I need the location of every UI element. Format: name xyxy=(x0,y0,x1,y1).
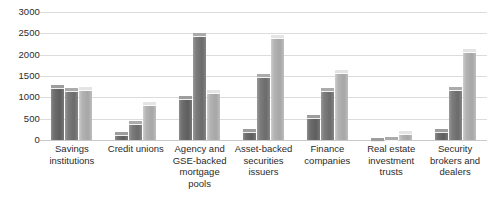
x-label: Credit unions xyxy=(104,143,168,155)
bar[interactable] xyxy=(449,87,462,140)
bar-series-container xyxy=(40,12,487,140)
bar[interactable] xyxy=(385,137,398,140)
bar-group xyxy=(40,12,104,140)
bar-group xyxy=(168,12,232,140)
bar-top-highlight xyxy=(335,70,348,74)
bar[interactable] xyxy=(51,85,64,140)
bar[interactable] xyxy=(307,115,320,140)
bar-top-highlight xyxy=(399,131,412,135)
bar[interactable] xyxy=(179,96,192,140)
bar[interactable] xyxy=(65,88,78,140)
y-tick-label-2000: 2000 xyxy=(18,49,40,60)
bar[interactable] xyxy=(335,70,348,140)
plot-area xyxy=(40,12,487,140)
x-label: Finance companies xyxy=(295,143,359,166)
bar-top-highlight xyxy=(307,115,320,119)
y-tick-label-1000: 1000 xyxy=(18,91,40,102)
bar-top-highlight xyxy=(463,49,476,53)
bar[interactable] xyxy=(115,132,128,140)
bar[interactable] xyxy=(143,102,156,140)
bar-top-highlight xyxy=(257,74,270,78)
x-label: Asset-backed securities issuers xyxy=(232,143,296,178)
bar-top-highlight xyxy=(79,87,92,91)
bar-top-highlight xyxy=(371,138,384,142)
bar[interactable] xyxy=(193,33,206,140)
bar-top-highlight xyxy=(115,132,128,136)
bar-top-highlight xyxy=(129,121,142,125)
bar[interactable] xyxy=(371,138,384,140)
y-tick-label-500: 500 xyxy=(24,113,40,124)
bar-top-highlight xyxy=(65,88,78,92)
x-label: Savings institutions xyxy=(40,143,104,166)
bar-top-highlight xyxy=(193,33,206,37)
y-tick-label-3000: 3000 xyxy=(18,6,40,17)
bar-top-highlight xyxy=(179,96,192,100)
bar-group xyxy=(359,12,423,140)
bar[interactable] xyxy=(257,74,270,140)
bar-top-highlight xyxy=(51,85,64,89)
bar-chart: 050010001500200025003000 Savings institu… xyxy=(0,0,495,202)
bar[interactable] xyxy=(129,121,142,140)
x-label: Real estate investment trusts xyxy=(359,143,423,178)
y-tick-label-2500: 2500 xyxy=(18,27,40,38)
bar-top-highlight xyxy=(435,129,448,133)
bar[interactable] xyxy=(79,87,92,140)
bar[interactable] xyxy=(207,90,220,140)
bar[interactable] xyxy=(271,35,284,140)
bar-group xyxy=(423,12,487,140)
y-tick-label-1500: 1500 xyxy=(18,70,40,81)
bar[interactable] xyxy=(399,131,412,140)
bar-top-highlight xyxy=(449,87,462,91)
x-label: Agency and GSE-backed mortgage pools xyxy=(168,143,232,189)
bar[interactable] xyxy=(321,88,334,140)
bar-top-highlight xyxy=(207,90,220,94)
bar[interactable] xyxy=(243,129,256,140)
bar-group xyxy=(104,12,168,140)
bar[interactable] xyxy=(463,49,476,140)
bar-top-highlight xyxy=(385,137,398,141)
x-label: Security brokers and dealers xyxy=(423,143,487,178)
bar-top-highlight xyxy=(271,35,284,39)
bar-top-highlight xyxy=(243,129,256,133)
bar-group xyxy=(295,12,359,140)
bar-group xyxy=(232,12,296,140)
bar-top-highlight xyxy=(321,88,334,92)
bar[interactable] xyxy=(435,129,448,140)
bar-top-highlight xyxy=(143,102,156,106)
x-axis-category-labels: Savings institutionsCredit unionsAgency … xyxy=(40,143,487,201)
gridline-0 xyxy=(40,140,487,141)
